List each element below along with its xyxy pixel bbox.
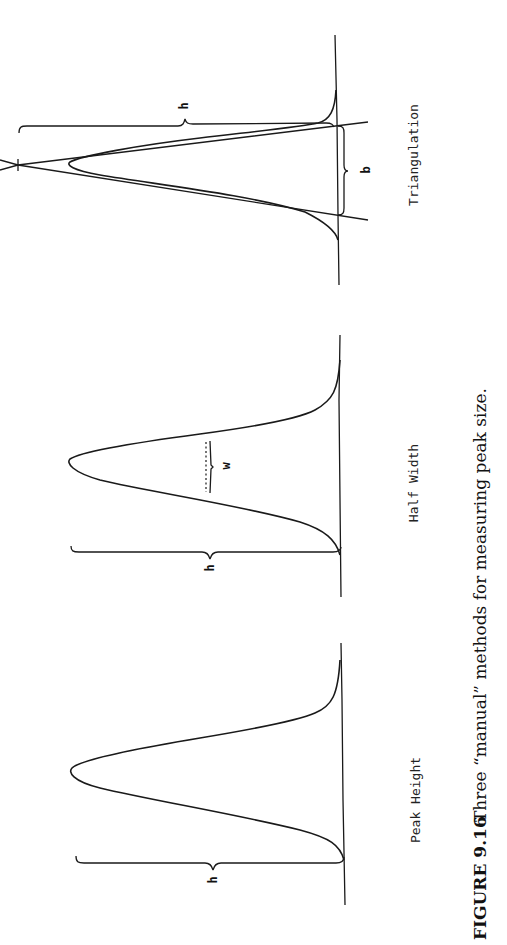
figure-canvas: h Peak Height h w Half Width h b Triangu… [0, 0, 507, 945]
height-symbol: h [206, 876, 220, 883]
half-width-brace [210, 441, 213, 493]
panel-label-half-width: Half Width [406, 444, 421, 522]
panel-label-triangulation: Triangulation [406, 104, 421, 206]
height-symbol: h [177, 102, 191, 109]
baseline [341, 643, 345, 905]
gaussian-peak [69, 90, 338, 240]
base-symbol: b [359, 166, 373, 173]
width-symbol: w [219, 462, 233, 470]
height-brace [19, 119, 334, 133]
caption-text: Three “manual” methods for measuring pea… [470, 388, 490, 822]
panel-peak-height: h Peak Height [71, 643, 423, 905]
figure-caption: FIGURE 9.16 Three “manual” methods for m… [470, 388, 490, 940]
panel-half-width: h w Half Width [69, 335, 421, 597]
panel-label-peak-height: Peak Height [408, 757, 423, 843]
gaussian-peak [71, 660, 344, 860]
height-symbol: h [203, 564, 217, 571]
height-brace [71, 546, 341, 559]
panel-triangulation: h b Triangulation [0, 35, 421, 285]
figure-number: FIGURE 9.16 [470, 816, 490, 940]
tangent-line-leading [0, 122, 368, 170]
tangent-line-trailing [0, 160, 368, 220]
gaussian-peak [69, 360, 340, 555]
base-brace [338, 126, 348, 215]
height-brace [76, 856, 344, 870]
baseline [335, 35, 339, 285]
